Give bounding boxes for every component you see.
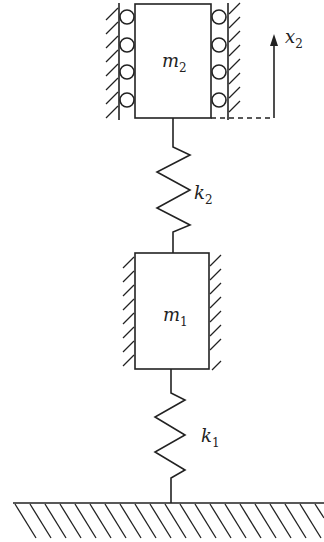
right-guide-wall-lower [210,255,221,370]
arrow-up-icon [270,34,278,46]
mass-m2-label: m2 [162,50,187,75]
spring-k1-label: k1 [201,425,220,450]
right-rollers [212,10,226,107]
mass-m1-label: m1 [163,304,188,329]
spring-k2 [157,118,190,253]
displacement-x2-label: x2 [285,26,303,51]
right-guide-wall-upper [228,3,240,120]
spring-mass-diagram: m2 x2 k2 m1 k1 [0,0,324,542]
left-rollers [120,10,134,107]
ground [13,503,324,538]
left-guide-wall-lower [123,257,134,366]
spring-k1 [155,369,185,503]
left-guide-wall-upper [106,3,119,120]
spring-k2-label: k2 [194,182,213,207]
displacement-x2 [211,34,278,118]
